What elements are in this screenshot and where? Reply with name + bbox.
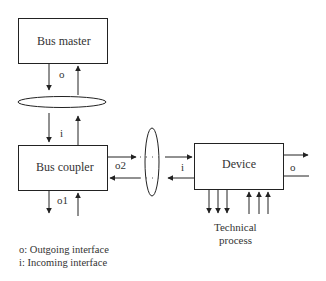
- bus-coupler-label: Bus coupler: [36, 160, 94, 175]
- coupler-out1-label: o1: [57, 194, 68, 206]
- coupler-out2-label: o2: [115, 159, 126, 171]
- bus-master-label: Bus master: [37, 34, 91, 49]
- technical-process-label-1: Technical: [214, 221, 257, 233]
- legend-incoming: i: Incoming interface: [19, 256, 107, 269]
- bus-ellipse-vertical: [145, 128, 159, 196]
- device-in-label: i: [181, 161, 184, 173]
- bus-ellipse-horizontal: [18, 97, 106, 108]
- device-label: Device: [222, 157, 256, 172]
- master-out-label: o: [59, 68, 65, 80]
- coupler-in-label: i: [60, 127, 63, 139]
- device-out-label: o: [290, 161, 296, 173]
- legend-outgoing: o: Outgoing interface: [19, 243, 109, 256]
- technical-process-label-2: process: [219, 234, 252, 246]
